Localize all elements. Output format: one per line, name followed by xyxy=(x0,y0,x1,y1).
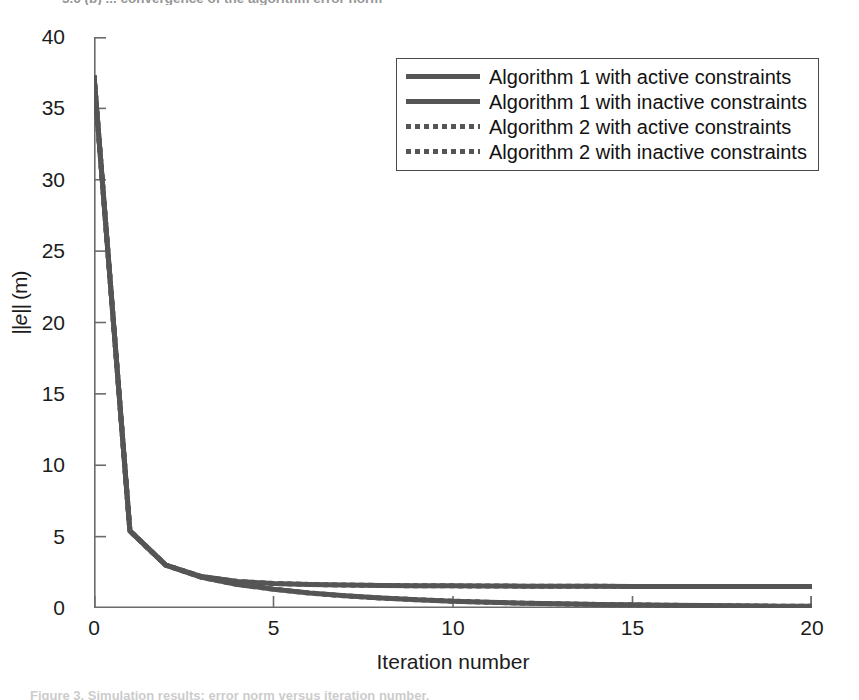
x-tick-label: 5 xyxy=(268,616,280,640)
legend-entry[interactable]: Algorithm 2 with active constraints xyxy=(406,114,810,139)
x-tick-label: 15 xyxy=(621,616,644,640)
x-tick-label: 20 xyxy=(800,616,823,640)
y-tick-label: 40 xyxy=(42,25,78,49)
legend-line-sample xyxy=(406,119,480,135)
dotted-line-icon xyxy=(406,149,480,154)
legend-entry[interactable]: Algorithm 2 with inactive constraints xyxy=(406,139,810,164)
x-axis-title: Iteration number xyxy=(94,650,812,674)
y-tick-label: 35 xyxy=(42,96,78,120)
y-axis-title-prefix: || xyxy=(8,326,31,335)
x-tick-label: 0 xyxy=(88,616,100,640)
solid-line-icon xyxy=(406,99,480,104)
x-axis-tick-labels: 05101520 xyxy=(94,616,812,646)
y-tick-label: 0 xyxy=(53,596,78,620)
figure-caption-bottom: Figure 3. Simulation results: error norm… xyxy=(0,688,859,700)
dotted-line-icon xyxy=(406,124,480,129)
figure-caption-top: 3.6 (b) ... convergence of the algorithm… xyxy=(0,0,859,5)
x-tick-label: 10 xyxy=(441,616,464,640)
y-axis-title-variable: e xyxy=(8,314,31,326)
legend-label: Algorithm 2 with active constraints xyxy=(489,117,791,137)
y-axis-title: ||e|| (m) xyxy=(8,272,31,335)
legend-label: Algorithm 1 with inactive constraints xyxy=(489,92,807,112)
y-tick-label: 25 xyxy=(42,239,78,263)
legend-label: Algorithm 1 with active constraints xyxy=(489,67,791,87)
legend-line-sample xyxy=(406,69,480,85)
y-tick-label: 30 xyxy=(42,168,78,192)
legend-entry[interactable]: Algorithm 1 with active constraints xyxy=(406,64,810,89)
legend-label: Algorithm 2 with inactive constraints xyxy=(489,142,807,162)
y-tick-label: 20 xyxy=(42,311,78,335)
y-axis-title-suffix: || (m) xyxy=(8,272,31,314)
legend-entry[interactable]: Algorithm 1 with inactive constraints xyxy=(406,89,810,114)
y-tick-label: 10 xyxy=(42,453,78,477)
chart-legend: Algorithm 1 with active constraintsAlgor… xyxy=(396,58,819,171)
y-tick-label: 15 xyxy=(42,382,78,406)
solid-line-icon xyxy=(406,74,480,79)
legend-line-sample xyxy=(406,94,480,110)
y-axis-title-container: ||e|| (m) xyxy=(8,223,38,383)
figure-root: 3.6 (b) ... convergence of the algorithm… xyxy=(0,0,859,700)
y-tick-label: 5 xyxy=(53,525,78,549)
legend-line-sample xyxy=(406,144,480,160)
